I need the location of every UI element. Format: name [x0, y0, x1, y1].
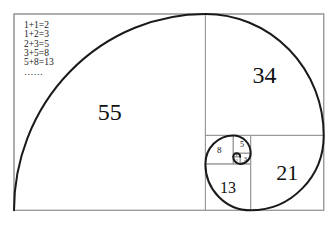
square-label-21: 21 — [276, 160, 298, 185]
fibonacci-spiral-diagram: 553421138532 1+1=21+2=32+3=53+5=85+8=13…… — [0, 0, 336, 228]
square-labels: 553421138532 — [98, 62, 298, 196]
square-label-13: 13 — [220, 179, 236, 196]
square-label-5: 5 — [240, 140, 244, 149]
equation-list: 1+1=21+2=32+3=53+5=85+8=13…… — [24, 20, 54, 77]
square-label-8: 8 — [217, 145, 222, 155]
square-label-55: 55 — [98, 99, 122, 125]
square-label-34: 34 — [253, 62, 277, 88]
square-label-2: 2 — [236, 158, 238, 163]
square-label-3: 3 — [244, 156, 247, 162]
equation-line: …… — [24, 67, 43, 77]
